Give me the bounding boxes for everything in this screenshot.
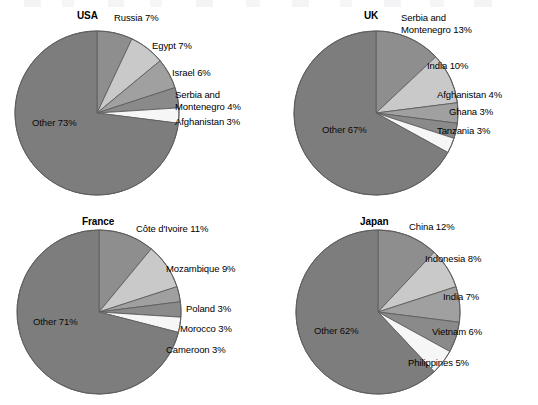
slice-label-japan-vietnam: Vietnam 6%	[432, 326, 482, 338]
slice-label-japan-india: India 7%	[443, 291, 479, 303]
chart-title-japan: Japan	[360, 216, 388, 227]
pie-japan	[0, 0, 538, 405]
slice-label-japan-philippines: Philippines 5%	[408, 357, 469, 369]
slice-label-japan-china: China 12%	[409, 221, 455, 233]
slice-label-japan-indonesia: Indonesia 8%	[425, 253, 481, 265]
slice-label-japan-other: Other 62%	[314, 325, 359, 337]
pie-panel-japan: JapanChina 12%Indonesia 8%India 7%Vietna…	[0, 0, 538, 405]
pie-chart-figure: USARussia 7%Egypt 7%Israel 6%Serbia and …	[0, 0, 538, 405]
